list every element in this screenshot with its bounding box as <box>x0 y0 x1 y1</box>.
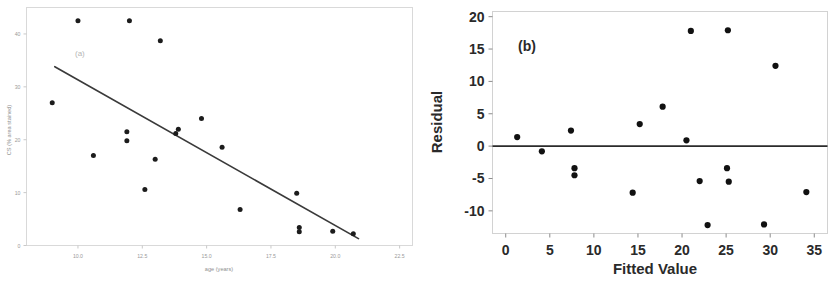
panel-b-label: (b) <box>518 38 536 54</box>
panel-b-data-point <box>571 172 577 178</box>
panel-a-data-point <box>91 153 96 158</box>
panel-b-data-point <box>660 104 666 110</box>
panel-b-data-point <box>724 165 730 171</box>
panel-a-label: (a) <box>75 49 85 58</box>
panel-a-svg: 10.012.515.017.520.022.5 010203040 (a) a… <box>0 0 420 282</box>
panel-b-x-tick-label: 0 <box>502 242 510 258</box>
panel-a-y-axis-label: CS (% area stained) <box>6 105 12 156</box>
panel-a-data-point <box>75 18 80 23</box>
panel-a-data-point <box>127 18 132 23</box>
panel-b-data-point <box>514 134 520 140</box>
panel-a-x-tick-labels: 10.012.515.017.520.022.5 <box>73 253 405 259</box>
panel-b-x-tick-label: 15 <box>630 242 646 258</box>
panel-a-x-tick-label: 17.5 <box>266 253 276 259</box>
panel-b-y-tick-label: 10 <box>469 73 485 89</box>
panel-b-x-tick-label: 30 <box>762 242 778 258</box>
panel-b-x-axis-label: Fitted Value <box>613 260 697 277</box>
panel-a-data-point <box>124 129 129 134</box>
panel-b-y-tick-label: 0 <box>477 138 485 154</box>
panel-a-y-tick-label: 20 <box>15 137 21 143</box>
panel-a-x-tick-label: 20.0 <box>330 253 340 259</box>
panel-b-data-point <box>688 28 694 34</box>
figure-container: 10.012.515.017.520.022.5 010203040 (a) a… <box>0 0 837 282</box>
panel-b-data-point <box>568 127 574 133</box>
panel-b-data-point <box>803 189 809 195</box>
panel-a-data-point <box>124 138 129 143</box>
panel-b-data-point <box>725 27 731 33</box>
panel-a-data-points <box>50 18 356 236</box>
panel-a-data-point <box>297 229 302 234</box>
panel-a-regression-line <box>55 67 359 239</box>
panel-b-data-point <box>539 148 545 154</box>
panel-b-data-point <box>772 63 778 69</box>
panel-a-data-point <box>142 187 147 192</box>
panel-a-data-point <box>220 145 225 150</box>
panel-a-data-point <box>176 127 181 132</box>
panel-b-plot-frame <box>493 12 828 234</box>
panel-a-y-tick-label: 40 <box>15 31 21 37</box>
panel-b-data-point <box>726 179 732 185</box>
panel-b-data-point <box>761 221 767 227</box>
panel-b-data-point <box>683 137 689 143</box>
panel-b-x-tick-label: 5 <box>546 242 554 258</box>
panel-b-data-point <box>630 190 636 196</box>
panel-a-data-point <box>158 38 163 43</box>
panel-b-data-point <box>705 222 711 228</box>
panel-b-y-tick-label: -5 <box>472 170 485 186</box>
panel-b-y-tick-label: 5 <box>477 106 485 122</box>
panel-b-y-tick-labels: -10-505101520 <box>464 9 484 219</box>
panel-a-x-tick-label: 12.5 <box>137 253 147 259</box>
panel-b-x-tick-labels: 05101520253035 <box>502 242 822 258</box>
panel-a-y-tick-labels: 010203040 <box>15 31 21 249</box>
panel-a-x-tick-label: 22.5 <box>395 253 405 259</box>
panel-b-data-points <box>514 27 809 228</box>
panel-b-svg: 05101520253035 -10-505101520 (b) Fitted … <box>420 0 837 282</box>
panel-b-tickmarks <box>489 17 815 238</box>
panel-a-data-point <box>238 207 243 212</box>
panel-a-tickmarks <box>24 34 400 249</box>
panel-b-x-tick-label: 35 <box>806 242 822 258</box>
panel-a-data-point <box>294 191 299 196</box>
panel-b-y-tick-label: 15 <box>469 41 485 57</box>
panel-a-scatter-regression: 10.012.515.017.520.022.5 010203040 (a) a… <box>0 0 420 282</box>
panel-b-residual-plot: 05101520253035 -10-505101520 (b) Fitted … <box>420 0 837 282</box>
panel-b-y-axis-label: Residual <box>428 91 445 154</box>
panel-a-data-point <box>199 116 204 121</box>
panel-a-y-tick-label: 10 <box>15 190 21 196</box>
panel-a-data-point <box>173 131 178 136</box>
panel-a-data-point <box>153 157 158 162</box>
panel-a-x-tick-label: 10.0 <box>73 253 83 259</box>
panel-b-y-tick-label: 20 <box>469 9 485 25</box>
panel-a-x-axis-label: age (years) <box>205 266 233 272</box>
panel-b-data-point <box>571 165 577 171</box>
panel-b-x-tick-label: 25 <box>718 242 734 258</box>
panel-a-data-point <box>351 231 356 236</box>
panel-b-x-tick-label: 20 <box>674 242 690 258</box>
panel-b-data-point <box>697 178 703 184</box>
panel-b-x-tick-label: 10 <box>586 242 602 258</box>
panel-a-data-point <box>50 100 55 105</box>
panel-a-x-tick-label: 15.0 <box>202 253 212 259</box>
panel-b-data-point <box>637 121 643 127</box>
panel-a-y-tick-label: 0 <box>18 243 21 249</box>
panel-a-data-point <box>330 229 335 234</box>
panel-a-plot-frame <box>27 8 413 246</box>
panel-b-y-tick-label: -10 <box>464 203 484 219</box>
panel-a-y-tick-label: 30 <box>15 84 21 90</box>
